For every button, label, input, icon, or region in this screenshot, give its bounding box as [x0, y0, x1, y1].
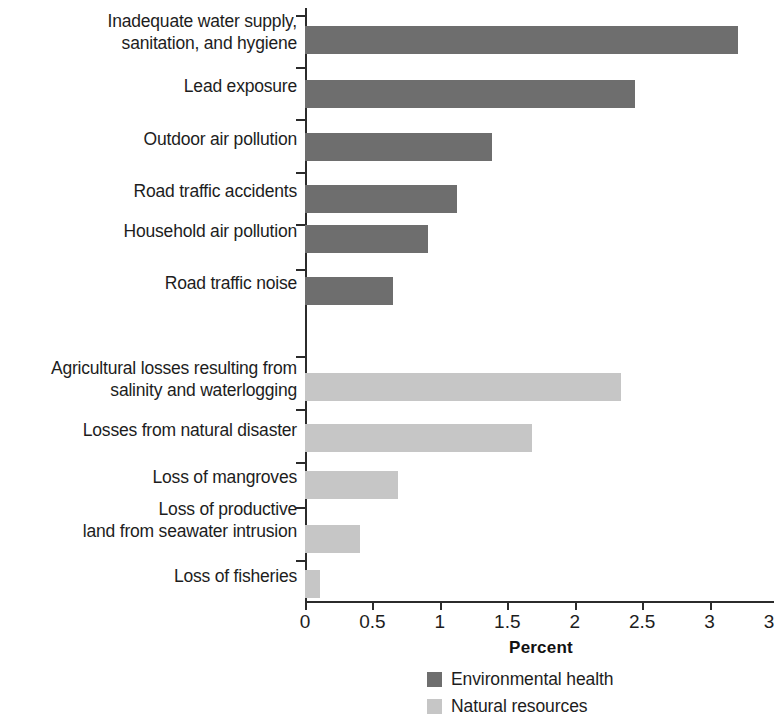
legend-item[interactable]: Natural resources: [427, 693, 613, 720]
category-label: Loss of mangroves: [0, 466, 297, 488]
x-axis-tick: [372, 601, 374, 610]
x-axis-tick: [507, 601, 509, 610]
legend-label: Natural resources: [451, 696, 587, 717]
bar: [305, 373, 621, 401]
x-axis-tick-label: 2: [545, 611, 605, 633]
x-axis-title: Percent: [305, 638, 774, 658]
legend: Environmental healthNatural resources: [427, 666, 613, 720]
legend-label: Environmental health: [451, 669, 613, 690]
x-axis-tick-label: 3: [680, 611, 740, 633]
x-axis-tick-label: 2.5: [612, 611, 672, 633]
x-axis-tick: [305, 601, 307, 610]
bar: [305, 424, 532, 452]
x-axis-tick-label: 0: [275, 611, 335, 633]
bar: [305, 277, 393, 305]
y-axis-tick: [296, 462, 305, 464]
x-axis-tick-label: 0.5: [342, 611, 402, 633]
x-axis-tick-label: 3.5: [747, 611, 774, 633]
bar: [305, 26, 738, 54]
plot-area: [305, 8, 774, 602]
category-label: Lead exposure: [0, 75, 297, 97]
bar-chart: Inadequate water supply, sanitation, and…: [0, 0, 774, 721]
y-axis-tick: [296, 409, 305, 411]
x-axis-line: [305, 601, 774, 603]
legend-swatch-light: [427, 699, 442, 714]
category-label: Household air pollution: [0, 220, 297, 242]
bar: [305, 185, 457, 213]
x-axis-tick: [710, 601, 712, 610]
y-axis-tick: [296, 67, 305, 69]
bar: [305, 471, 398, 499]
category-label: Loss of productive land from seawater in…: [0, 498, 297, 542]
category-label: Agricultural losses resulting from salin…: [0, 357, 297, 401]
bar: [305, 80, 635, 108]
bar: [305, 225, 428, 253]
y-axis-tick: [296, 172, 305, 174]
category-label: Road traffic noise: [0, 272, 297, 294]
bar: [305, 525, 360, 553]
category-label: Inadequate water supply, sanitation, and…: [0, 10, 297, 54]
y-axis-tick: [296, 269, 305, 271]
category-label: Losses from natural disaster: [0, 419, 297, 441]
category-label: Outdoor air pollution: [0, 128, 297, 150]
legend-item[interactable]: Environmental health: [427, 666, 613, 693]
y-axis-tick: [296, 356, 305, 358]
legend-swatch-dark: [427, 672, 442, 687]
bar: [305, 133, 492, 161]
category-label: Road traffic accidents: [0, 180, 297, 202]
category-label: Loss of fisheries: [0, 565, 297, 587]
x-axis-tick-label: 1: [410, 611, 470, 633]
x-axis-tick: [575, 601, 577, 610]
y-axis-tick: [296, 15, 305, 17]
x-axis-tick: [642, 601, 644, 610]
y-axis-tick: [296, 560, 305, 562]
y-axis-tick: [296, 507, 305, 509]
bar: [305, 570, 320, 598]
y-axis-tick: [296, 119, 305, 121]
x-axis-tick-label: 1.5: [477, 611, 537, 633]
y-axis-tick: [296, 224, 305, 226]
x-axis-tick: [440, 601, 442, 610]
